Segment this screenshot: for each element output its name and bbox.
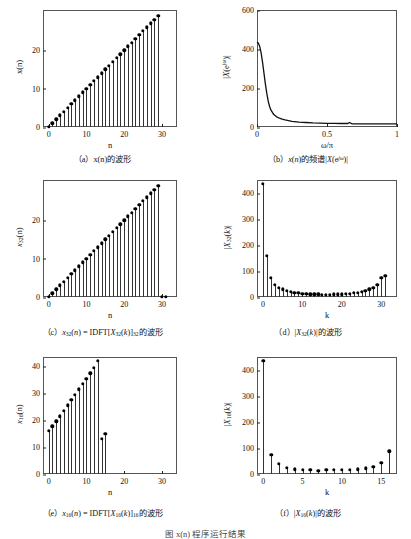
panel-a-stem-line [109,66,110,127]
panel-a-stem-line [154,20,155,127]
panel-f-stem-line [279,464,280,474]
panel-a-data-point [81,91,84,94]
panel-d-data-point [340,292,343,295]
panel-c-stem-line [86,259,87,297]
panel-d-y-tick: 300 [242,215,257,224]
panel-e-data-point [88,371,91,374]
panel-c-x-tick: 20 [120,297,128,309]
panel-b-x-tick: 0 [255,127,259,139]
panel-c-stem-line [98,247,99,297]
panel-c-stem-line [79,266,80,297]
panel-d-data-point [312,293,315,296]
tick-mark [43,259,46,260]
panel-f-stem-line [271,455,272,475]
panel-a-stem-line [143,31,144,127]
panel-a-data-point [58,114,61,117]
panel-c-stem-line [75,270,76,297]
panel-a-stem-line [113,62,114,127]
panel-f-y-tick: 100 [242,444,257,453]
panel-f-data-point [285,466,288,469]
panel-c-stem-line [143,201,144,297]
panel-a-x-tick: 20 [120,127,128,139]
panel-a-stem-line [86,89,87,127]
panel-a-data-point [149,22,152,25]
panel-a-stem-line [64,112,65,127]
panel-d-y-tick: 400 [242,189,257,198]
panel-e-stem-line [79,389,80,474]
panel-c-x-axis-label: n [43,310,177,320]
panel-c-stem-line [94,251,95,297]
panel-c-stem-line [113,232,114,297]
panel-f-y-axis-label: |X16(k)| [222,388,232,440]
panel-c-data-point [156,184,159,187]
panel-c-data-point [119,222,122,225]
panel-f-x-tick: 15 [377,474,385,486]
panel-c-caption: （c）x32(n) = IDFT[X32(k)]32的波形 [0,325,205,337]
panel-d-y-tick: 100 [242,267,257,276]
panel-e: x16(n) n （e）x16(n) = IDFT[X16(k)]16的波形 0… [0,345,205,525]
panel-b-y-tick: 400 [242,45,257,54]
panel-d-data-point [380,276,383,279]
panel-f-x-tick: 0 [261,474,265,486]
panel-c-stem-line [105,239,106,297]
panel-e-y-tick: 30 [32,389,43,398]
panel-a-data-point [119,52,122,55]
panel-d-data-point [348,292,351,295]
panel-b-y-tick: 600 [242,6,257,15]
panel-d-data-point [316,293,319,296]
panel-d-stem-line [279,288,280,297]
panel-f-data-point [277,462,280,465]
panel-a-data-point [66,106,69,109]
panel-a-data-point [156,14,159,17]
panel-c-data-point [122,219,125,222]
panel-d-stem-line [381,278,382,298]
panel-b-x-tick: 1 [395,127,399,139]
panel-d-data-point [297,291,300,294]
panel-e-stem-line [56,421,57,474]
panel-a-stem-line [120,54,121,127]
panel-a-caption: （a）x(n)的波形 [0,152,205,164]
panel-e-stem-line [102,439,103,474]
panel-e-x-tick: 10 [82,474,90,486]
panel-a-data-point [100,72,103,75]
panel-f-data-point [269,453,272,456]
panel-c-y-tick: 20 [32,216,43,225]
panel-f-data-point [356,468,359,471]
tick-mark [257,297,260,298]
panel-e-stem-line [83,384,84,474]
panel-a-stem-line [135,39,136,127]
panel-c-stem-line [151,193,152,297]
panel-d-data-point [285,289,288,292]
panel-a-data-point [51,121,54,124]
panel-c-stem-line [109,236,110,297]
panel-a-x-axis-label: n [43,140,177,150]
panel-d-stem-line [385,276,386,297]
panel-d-data-point [261,182,264,185]
panel-a-x-tick: 30 [158,127,166,139]
panel-f-stem-line [381,463,382,474]
panel-a-stem-line [102,73,103,127]
panel-c-data-point [70,272,73,275]
panel-f-data-point [325,468,328,471]
panel-e-stem-line [98,361,99,474]
panel-e-caption: （e）x16(n) = IDFT[X16(k)]16的波形 [0,506,205,518]
panel-c-stem-line [132,213,133,297]
panel-a-data-point [145,26,148,29]
panel-e-data-point [81,382,84,385]
panel-a-data-point [104,68,107,71]
panel-c-stem-line [102,243,103,297]
panel-d-stem-line [275,285,276,297]
panel-d-data-point [324,293,327,296]
panel-e-x-tick: 30 [158,474,166,486]
panel-c-x-tick: 0 [47,297,51,309]
panel-a: x(n) n （a）x(n)的波形 010200102030 [0,0,205,170]
panel-a-stem-line [147,27,148,127]
panel-d-data-point [269,276,272,279]
panel-d-y-axis-label: |X32(k)| [222,211,232,263]
panel-b: |X(ejω)| ω/π （b）x(n)的频谱|X(ejω)| 02004006… [205,0,411,170]
panel-f-y-tick: 200 [242,418,257,427]
tick-mark [257,219,260,220]
panel-e-stem-line [68,405,69,474]
tick-mark [162,124,163,127]
panel-c-stem-line [128,216,129,297]
